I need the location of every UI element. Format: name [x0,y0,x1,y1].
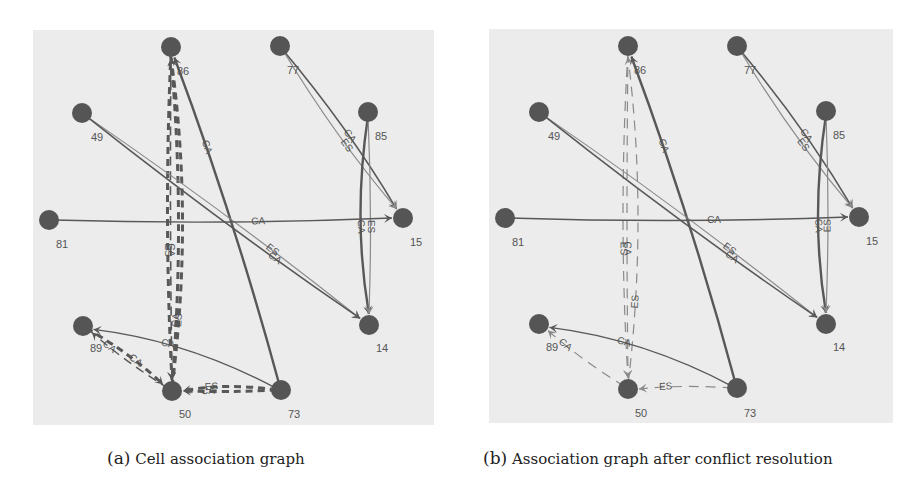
edge-label: ES [659,380,673,392]
node-label-85: 85 [375,130,387,142]
node-89 [529,314,549,334]
node-label-89: 89 [546,341,558,353]
node-label-86: 86 [177,65,189,77]
panel-a: CAESCAESCAESCACAESCAESCACACACAESCA867749… [33,30,434,425]
figure: CAESCAESCAESCACAESCAESCACACACAESCA867749… [0,0,917,502]
edge-label: CA [166,243,177,257]
edge-label: ES [629,294,641,308]
node-label-77: 77 [287,64,299,76]
node-86 [618,36,638,56]
node-85 [816,101,836,121]
caption-b-text: Association graph after conflict resolut… [512,450,833,468]
edge-label: CA [356,220,367,234]
edge-label: CA [707,214,721,225]
node-81 [39,210,59,230]
node-85 [358,102,378,122]
node-50 [618,379,638,399]
node-89 [73,316,93,336]
node-50 [162,381,182,401]
node-label-49: 49 [91,131,103,143]
node-14 [359,315,379,335]
caption-a-tag: (a) [107,448,130,468]
node-73 [271,380,291,400]
edge-label: CA [201,385,215,396]
node-label-50: 50 [179,408,191,420]
node-label-85: 85 [833,129,845,141]
node-49 [72,103,92,123]
node-label-49: 49 [548,130,560,142]
node-label-15: 15 [866,235,878,247]
node-77 [270,36,290,56]
node-label-77: 77 [744,64,756,76]
caption-b-tag: (b) [483,448,507,468]
panel-b: CAESESCAESCACAESCAESCACACAES867749858115… [489,29,893,423]
node-77 [727,36,747,56]
node-label-89: 89 [90,342,102,354]
node-81 [495,208,515,228]
edge-label: ES [366,220,377,234]
node-15 [849,207,869,227]
edge-label: CA [251,215,265,226]
node-15 [393,208,413,228]
edge-label: ES [822,219,833,233]
node-86 [161,37,181,57]
caption-a-text: Cell association graph [135,450,305,468]
node-label-81: 81 [56,238,68,250]
node-label-15: 15 [410,236,422,248]
node-label-50: 50 [635,407,647,419]
node-label-73: 73 [744,407,756,419]
node-label-73: 73 [288,408,300,420]
node-label-14: 14 [833,341,845,353]
node-49 [529,102,549,122]
node-14 [816,314,836,334]
node-label-81: 81 [512,236,524,248]
caption-a: (a) Cell association graph [107,448,305,468]
edge-label: CA [622,242,633,256]
node-73 [727,378,747,398]
node-label-14: 14 [376,342,388,354]
caption-b: (b) Association graph after conflict res… [483,448,833,468]
graph-canvas: CAESCAESCAESCACAESCAESCACACACAESCA867749… [0,0,917,502]
node-label-86: 86 [634,64,646,76]
